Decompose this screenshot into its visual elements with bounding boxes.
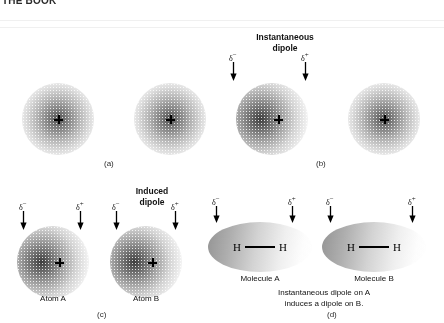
arrow-down-icon [229, 62, 238, 82]
molecule-a-bond: H H [208, 222, 312, 272]
stipple-texture [110, 226, 182, 298]
molecule-b-label: Molecule B [322, 274, 426, 283]
bond-line [245, 246, 275, 247]
caption-line-1: Instantaneous dipole on A [278, 288, 370, 297]
caption-line-2: induces a dipole on B. [285, 299, 364, 308]
atom-panel-a-right [134, 83, 206, 155]
dispersion-forces-figure: THE BOOK (a) Instantaneous dipole δ− δ+ [0, 0, 444, 323]
instantaneous-dipole-line2: dipole [272, 43, 297, 53]
nucleus-plus-icon [274, 115, 283, 124]
header-rule-bottom [0, 27, 444, 28]
panel-letter-b: (b) [316, 159, 326, 168]
delta-sign: − [216, 195, 220, 203]
atom-a-polarized [17, 226, 89, 298]
delta-sign: − [330, 195, 334, 203]
induced-dipole-line2: dipole [139, 197, 164, 207]
panel-letter-d: (d) [327, 310, 337, 319]
arrow-down-icon [19, 211, 28, 231]
atom-b-polarized [110, 226, 182, 298]
atom-panel-b-left-polarized [236, 83, 308, 155]
panel-d-caption: Instantaneous dipole on A induces a dipo… [224, 288, 424, 309]
arrow-down-icon [171, 211, 180, 231]
atom-a-label: Atom A [17, 294, 89, 303]
header-rule-top [0, 20, 444, 21]
arrow-down-icon [76, 211, 85, 231]
delta-sign: + [80, 200, 84, 208]
nucleus-plus-icon [166, 115, 175, 124]
nucleus-plus-icon [54, 115, 63, 124]
delta-sign: + [412, 195, 416, 203]
delta-sign: − [23, 200, 27, 208]
arrow-down-icon [301, 62, 310, 82]
atom-b-label: Atom B [110, 294, 182, 303]
molecule-b-bond: H H [322, 222, 426, 272]
induced-dipole-line1: Induced [136, 186, 169, 196]
clipped-header-text: THE BOOK [2, 0, 56, 5]
atom-panel-a-left [22, 83, 94, 155]
delta-sign: + [292, 195, 296, 203]
delta-sign: − [116, 200, 120, 208]
stipple-texture [17, 226, 89, 298]
hydrogen-atom-right: H [279, 241, 287, 253]
instantaneous-dipole-heading: Instantaneous dipole [235, 32, 335, 53]
induced-dipole-heading: Induced dipole [112, 186, 192, 207]
nucleus-plus-icon [380, 115, 389, 124]
delta-sign: − [233, 51, 237, 59]
stipple-texture [236, 83, 308, 155]
atom-panel-b-right [348, 83, 420, 155]
arrow-down-icon [112, 211, 121, 231]
delta-sign: + [175, 200, 179, 208]
panel-letter-a: (a) [104, 159, 114, 168]
instantaneous-dipole-line1: Instantaneous [256, 32, 314, 42]
hydrogen-atom-left: H [347, 241, 355, 253]
hydrogen-atom-right: H [393, 241, 401, 253]
hydrogen-atom-left: H [233, 241, 241, 253]
bond-line [359, 246, 389, 247]
nucleus-plus-icon [55, 258, 64, 267]
molecule-a-label: Molecule A [208, 274, 312, 283]
nucleus-plus-icon [148, 258, 157, 267]
panel-letter-c: (c) [97, 310, 106, 319]
delta-sign: + [305, 51, 309, 59]
